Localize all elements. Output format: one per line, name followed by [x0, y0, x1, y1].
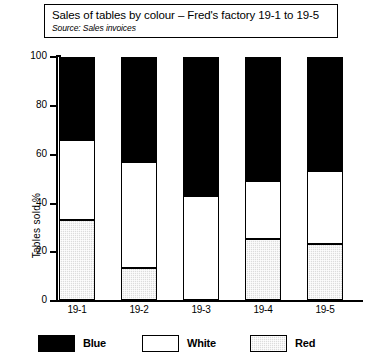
bar-19-2 — [121, 57, 157, 300]
x-tick-label-0: 19-1 — [47, 304, 107, 315]
x-tick-label-4: 19-5 — [295, 304, 355, 315]
bar-19-5 — [307, 57, 343, 300]
legend-label-red: Red — [295, 337, 315, 349]
chart-title-box: Sales of tables by colour – Fred's facto… — [44, 4, 338, 38]
bar-19-3 — [183, 57, 219, 300]
chart-title: Sales of tables by colour – Fred's facto… — [52, 9, 330, 22]
plot-area — [56, 57, 363, 300]
x-tick-label-1: 19-2 — [109, 304, 169, 315]
legend-item-white: White — [142, 333, 216, 353]
bar-segment-19-5-blue — [307, 57, 343, 171]
y-tick-0 — [50, 300, 56, 302]
x-tick-label-3: 19-4 — [233, 304, 293, 315]
x-axis-line — [56, 300, 363, 302]
bar-segment-19-4-red — [245, 239, 281, 300]
bar-19-1 — [59, 57, 95, 300]
legend-label-blue: Blue — [83, 337, 106, 349]
legend-label-white: White — [187, 337, 216, 349]
legend-item-red: Red — [250, 333, 315, 353]
y-tick-label-100: 100 — [6, 51, 50, 61]
bar-19-4 — [245, 57, 281, 300]
bar-segment-19-3-white — [183, 196, 219, 300]
y-axis-tick-labels: 100 80 60 40 20 0 — [0, 0, 50, 362]
bar-segment-19-5-red — [307, 244, 343, 300]
white-swatch-icon — [142, 335, 179, 352]
bar-segment-19-4-white — [245, 181, 281, 239]
bar-segment-19-5-white — [307, 171, 343, 244]
stacked-bar-chart: Sales of tables by colour – Fred's facto… — [0, 0, 383, 362]
bar-segment-19-2-white — [121, 162, 157, 269]
y-tick-label-80: 80 — [6, 100, 50, 110]
black-swatch-icon — [38, 335, 75, 352]
y-tick-label-60: 60 — [6, 149, 50, 159]
hatched-grey-swatch-icon — [250, 335, 287, 352]
bar-segment-19-1-white — [59, 140, 95, 220]
bar-segment-19-2-red — [121, 268, 157, 300]
bar-segment-19-4-blue — [245, 57, 281, 181]
x-tick-label-2: 19-3 — [171, 304, 231, 315]
bar-segment-19-1-blue — [59, 57, 95, 140]
chart-legend: Blue White Red — [0, 333, 383, 357]
legend-item-blue: Blue — [38, 333, 106, 353]
y-tick-label-0: 0 — [6, 295, 50, 305]
y-tick-label-40: 40 — [6, 198, 50, 208]
chart-source-note: Source: Sales invoices — [52, 23, 330, 34]
bar-segment-19-2-blue — [121, 57, 157, 161]
bar-segment-19-1-red — [59, 220, 95, 300]
y-tick-label-20: 20 — [6, 246, 50, 256]
bar-segment-19-3-blue — [183, 57, 219, 196]
